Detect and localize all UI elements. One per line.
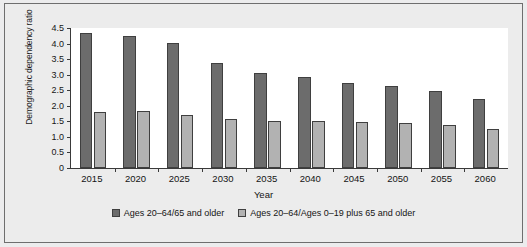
bar bbox=[385, 86, 398, 168]
x-axis-tick-labels: 2015202020252030203520402045205020552060 bbox=[70, 173, 507, 187]
legend-item[interactable]: Ages 20–64/Ages 0–19 plus 65 and older bbox=[238, 208, 415, 218]
x-tick-mark bbox=[421, 168, 422, 172]
bar bbox=[429, 91, 442, 168]
legend-item[interactable]: Ages 20–64/65 and older bbox=[112, 208, 225, 218]
x-tick-label: 2055 bbox=[419, 173, 463, 184]
bar bbox=[167, 43, 180, 168]
bar bbox=[473, 99, 486, 168]
y-tick-label: 2.0 bbox=[30, 101, 64, 111]
x-tick-label: 2035 bbox=[245, 173, 289, 184]
x-tick-label: 2050 bbox=[376, 173, 420, 184]
bar-group bbox=[71, 28, 115, 168]
y-tick-mark bbox=[67, 28, 71, 29]
plot-area bbox=[70, 28, 508, 169]
x-tick-mark bbox=[377, 168, 378, 172]
bar-group bbox=[333, 28, 377, 168]
bar bbox=[312, 121, 325, 168]
y-tick-mark bbox=[67, 106, 71, 107]
bar-group bbox=[290, 28, 334, 168]
y-tick-mark bbox=[67, 90, 71, 91]
bar bbox=[94, 112, 107, 168]
x-tick-mark bbox=[246, 168, 247, 172]
bar bbox=[137, 111, 150, 168]
bar-group bbox=[158, 28, 202, 168]
y-tick-label: 1.5 bbox=[30, 116, 64, 126]
y-tick-label: 0.5 bbox=[30, 147, 64, 157]
y-axis-tick-labels: 00.51.01.52.02.53.03.54.04.5 bbox=[30, 24, 64, 174]
x-tick-label: 2030 bbox=[201, 173, 245, 184]
bar bbox=[268, 121, 281, 168]
bar bbox=[298, 77, 311, 168]
legend-swatch-icon bbox=[238, 209, 246, 217]
y-tick-mark bbox=[67, 168, 71, 169]
legend-label: Ages 20–64/65 and older bbox=[124, 208, 225, 218]
x-tick-label: 2025 bbox=[157, 173, 201, 184]
x-tick-label: 2040 bbox=[288, 173, 332, 184]
x-tick-mark bbox=[158, 168, 159, 172]
y-tick-label: 2.5 bbox=[30, 85, 64, 95]
x-tick-mark bbox=[464, 168, 465, 172]
y-tick-mark bbox=[67, 75, 71, 76]
y-tick-mark bbox=[67, 59, 71, 60]
y-tick-label: 3.5 bbox=[30, 54, 64, 64]
bar bbox=[80, 33, 93, 168]
x-tick-label: 2020 bbox=[114, 173, 158, 184]
bar-group bbox=[421, 28, 465, 168]
x-tick-mark bbox=[115, 168, 116, 172]
bar-group bbox=[377, 28, 421, 168]
y-tick-label: 4.5 bbox=[30, 23, 64, 33]
legend-swatch-icon bbox=[112, 209, 120, 217]
y-tick-label: 1.0 bbox=[30, 132, 64, 142]
x-tick-label: 2015 bbox=[70, 173, 114, 184]
bar bbox=[443, 125, 456, 168]
bar-group bbox=[246, 28, 290, 168]
bar-group bbox=[115, 28, 159, 168]
legend-label: Ages 20–64/Ages 0–19 plus 65 and older bbox=[250, 208, 415, 218]
x-tick-mark bbox=[202, 168, 203, 172]
bar-group bbox=[202, 28, 246, 168]
y-tick-label: 4.0 bbox=[30, 39, 64, 49]
y-tick-label: 3.0 bbox=[30, 70, 64, 80]
bar bbox=[342, 83, 355, 168]
y-tick-label: 0 bbox=[30, 163, 64, 173]
bar bbox=[211, 63, 224, 168]
bar bbox=[487, 129, 500, 168]
x-tick-mark bbox=[290, 168, 291, 172]
bar bbox=[181, 115, 194, 168]
x-tick-label: 2060 bbox=[463, 173, 507, 184]
x-axis-title: Year bbox=[0, 189, 527, 200]
bar bbox=[399, 123, 412, 168]
bar bbox=[225, 119, 238, 168]
x-tick-mark bbox=[333, 168, 334, 172]
y-tick-mark bbox=[67, 152, 71, 153]
y-tick-mark bbox=[67, 137, 71, 138]
figure: Demographic dependency ratio 00.51.01.52… bbox=[0, 0, 527, 247]
bar bbox=[254, 73, 267, 168]
y-tick-mark bbox=[67, 121, 71, 122]
y-tick-mark bbox=[67, 44, 71, 45]
x-tick-label: 2045 bbox=[332, 173, 376, 184]
bar-series-container bbox=[71, 28, 508, 168]
bar bbox=[123, 36, 136, 168]
bar-group bbox=[464, 28, 508, 168]
chart: Demographic dependency ratio 00.51.01.52… bbox=[0, 0, 527, 247]
bar bbox=[356, 122, 369, 168]
legend: Ages 20–64/65 and olderAges 20–64/Ages 0… bbox=[0, 208, 527, 218]
